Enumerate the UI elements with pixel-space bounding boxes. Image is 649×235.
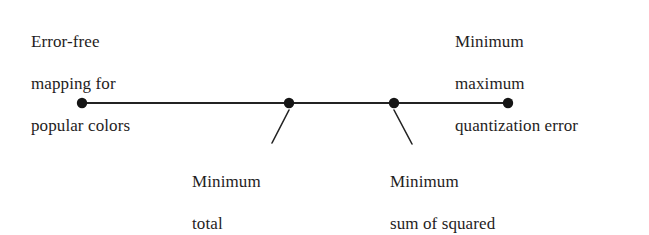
label-min-max-quantization-line-3: quantization error (455, 115, 578, 136)
label-minimum-total-quantization-errors: Minimum total quantization errors (192, 150, 322, 235)
label-min-max-quantization-line-1: Minimum (455, 31, 578, 52)
label-min-max-quantization-line-2: maximum (455, 73, 578, 94)
label-min-total-quantization-line-1: Minimum (192, 171, 322, 192)
label-min-sum-squared-line-1: Minimum (390, 171, 495, 192)
label-min-total-quantization-line-2: total (192, 213, 322, 234)
label-minimum-maximum-quantization-error: Minimum maximum quantization error (455, 10, 578, 157)
label-error-free-line-2: mapping for (31, 73, 130, 94)
quantization-tradeoff-figure: Error-free mapping for popular colors Mi… (0, 0, 649, 235)
label-error-free-line-3: popular colors (31, 115, 130, 136)
leader-line-min-total-quantization (272, 110, 289, 143)
leader-line-min-sum-squared (394, 110, 412, 144)
label-min-sum-squared-line-2: sum of squared (390, 213, 495, 234)
label-minimum-sum-of-squared-errors: Minimum sum of squared errors (390, 150, 495, 235)
axis-point-min-sum-squared (389, 98, 399, 108)
label-error-free-mapping: Error-free mapping for popular colors (31, 10, 130, 157)
axis-point-min-total-quantization (284, 98, 294, 108)
label-error-free-line-1: Error-free (31, 31, 130, 52)
